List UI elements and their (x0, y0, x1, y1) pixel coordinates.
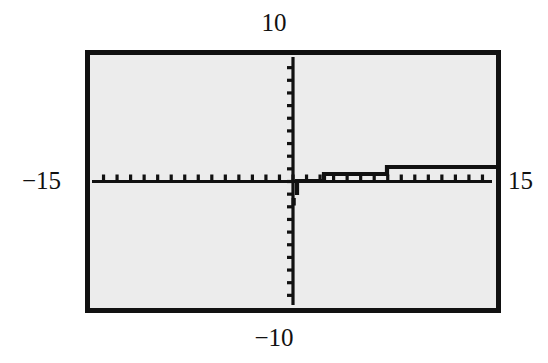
y-min-label: −10 (0, 325, 548, 350)
plot-canvas (90, 55, 496, 308)
x-max-label: 15 (508, 168, 533, 193)
x-min-label: −15 (22, 168, 61, 193)
calculator-screen (85, 50, 501, 313)
y-max-label: 10 (0, 10, 548, 35)
y-axis (287, 57, 294, 305)
log-curve (294, 167, 496, 206)
calculator-graph-figure: 10 −15 15 −10 (0, 0, 548, 363)
